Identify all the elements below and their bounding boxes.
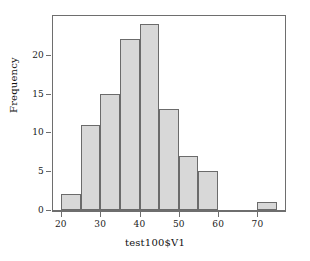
x-axis-title: test100$V1 [0, 237, 310, 248]
histogram-bars [53, 16, 285, 210]
histogram-bar [120, 39, 140, 210]
y-axis-tick [46, 132, 51, 133]
y-axis-tick-label: 5 [38, 166, 44, 176]
x-axis-tick-label: 20 [55, 219, 67, 229]
x-axis-tick [179, 212, 180, 217]
x-axis-tick [140, 212, 141, 217]
x-axis-tick-label: 50 [173, 219, 185, 229]
x-axis-tick [218, 212, 219, 217]
y-axis-tick-label: 15 [32, 89, 44, 99]
histogram-bar [81, 125, 101, 210]
x-axis-tick [100, 212, 101, 217]
y-axis-tick-label: 10 [32, 127, 44, 137]
x-axis-tick [257, 212, 258, 217]
histogram-bar [61, 194, 81, 210]
histogram-figure: 203040506070 05101520 test100$V1 Frequen… [0, 0, 310, 261]
histogram-bar [179, 156, 199, 210]
y-axis-tick [46, 94, 51, 95]
x-axis-tick [61, 212, 62, 217]
histogram-bar [140, 24, 160, 210]
y-axis-title: Frequency [8, 57, 19, 113]
histogram-bar [198, 171, 218, 210]
y-axis-tick [46, 171, 51, 172]
x-axis-tick-label: 30 [94, 219, 106, 229]
y-axis-tick-label: 0 [38, 205, 44, 215]
histogram-bar [100, 94, 120, 210]
x-axis-tick-label: 60 [212, 219, 224, 229]
x-axis-line [52, 211, 286, 212]
y-axis-tick [46, 55, 51, 56]
x-axis-tick-label: 70 [252, 219, 264, 229]
y-axis-tick [46, 210, 51, 211]
histogram-bar [159, 109, 179, 210]
histogram-bar [257, 202, 277, 210]
y-axis-tick-label: 20 [32, 50, 44, 60]
y-axis-line [52, 15, 53, 211]
x-axis-tick-label: 40 [134, 219, 146, 229]
